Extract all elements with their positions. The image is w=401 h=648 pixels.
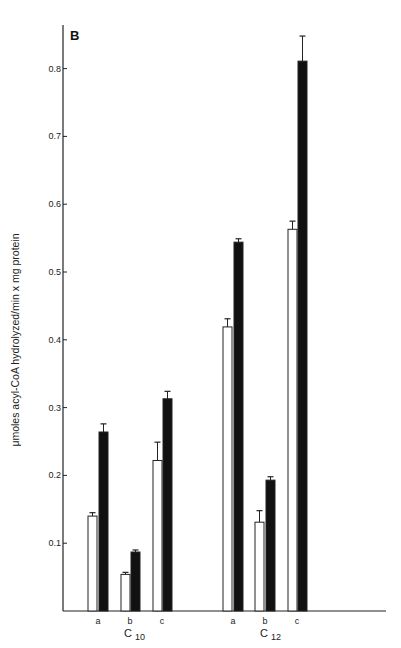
open-bar [153, 460, 162, 611]
y-tick-label: 0.5 [48, 267, 61, 277]
x-category-label: c [160, 616, 165, 626]
y-tick-label: 0.3 [48, 403, 61, 413]
y-tick-label: 0.2 [48, 470, 61, 480]
filled-bar [234, 242, 243, 611]
group-label-subscript: 12 [271, 632, 281, 642]
x-category-label: c [295, 616, 300, 626]
y-tick-label: 0.4 [48, 335, 61, 345]
x-category-label: a [230, 616, 235, 626]
y-tick-label: 0.8 [48, 64, 61, 74]
y-axis-label: μmoles acyl-CoA hydrolyzed/min x mg prot… [9, 233, 21, 446]
group-label: C10 [124, 627, 145, 642]
bar-chart: B 0.10.20.30.40.50.60.70.8 abcC10abcC12 … [0, 0, 401, 648]
filled-bar [131, 552, 140, 611]
y-tick-label: 0.6 [48, 199, 61, 209]
x-axis-labels: abcC10abcC12 [95, 616, 299, 642]
group-label: C12 [260, 627, 281, 642]
filled-bar [163, 399, 172, 611]
group-label-subscript: 10 [135, 632, 145, 642]
open-bar [121, 574, 130, 611]
x-category-label: a [95, 616, 100, 626]
filled-bar [99, 432, 108, 611]
filled-bar [298, 61, 307, 611]
bars [88, 36, 307, 611]
open-bar [88, 516, 97, 611]
y-tick-label: 0.7 [48, 131, 61, 141]
open-bar [255, 522, 264, 611]
x-category-label: b [262, 616, 267, 626]
open-bar [288, 229, 297, 611]
y-tick-label: 0.1 [48, 538, 61, 548]
filled-bar [266, 480, 275, 611]
open-bar [223, 327, 232, 611]
panel-label: B [70, 28, 79, 43]
x-category-label: b [127, 616, 132, 626]
